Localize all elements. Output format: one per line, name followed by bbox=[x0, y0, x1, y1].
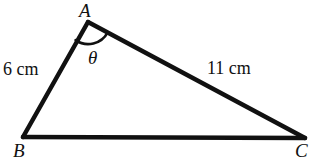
side-bc-line bbox=[23, 137, 305, 138]
side-ac-line bbox=[88, 22, 305, 138]
triangle-figure: A B C 6 cm 11 cm θ bbox=[0, 0, 315, 164]
side-length-label-ac: 11 cm bbox=[207, 59, 251, 77]
side-ab-line bbox=[23, 22, 88, 137]
side-length-label-ab: 6 cm bbox=[3, 60, 39, 78]
vertex-label-b: B bbox=[13, 141, 25, 160]
angle-label-theta: θ bbox=[88, 48, 97, 67]
vertex-label-c: C bbox=[295, 141, 308, 160]
triangle-drawing bbox=[0, 0, 315, 164]
vertex-label-a: A bbox=[79, 1, 91, 20]
